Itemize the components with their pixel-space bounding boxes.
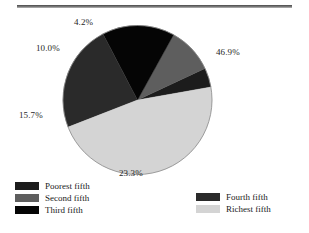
legend-label-poorest-fifth: Poorest fifth <box>45 181 90 191</box>
chart-legend: Poorest fifth Second fifth Third fifth F… <box>0 180 309 218</box>
pie-chart-figure: 46.9% 23.3% 15.7% 10.0% 4.2% Poorest fif… <box>0 0 309 233</box>
legend-swatch-icon <box>15 182 39 190</box>
legend-item-fourth-fifth: Fourth fifth <box>196 191 271 202</box>
legend-item-poorest-fifth: Poorest fifth <box>15 180 90 191</box>
slice-value-third-fifth: 15.7% <box>19 110 43 120</box>
legend-item-second-fifth: Second fifth <box>15 192 90 203</box>
slice-value-poorest-fifth: 4.2% <box>74 17 93 27</box>
slice-value-richest-fifth: 46.9% <box>216 47 240 57</box>
legend-swatch-icon <box>15 206 39 214</box>
legend-item-third-fifth: Third fifth <box>15 204 90 215</box>
legend-swatch-icon <box>196 205 220 213</box>
legend-label-third-fifth: Third fifth <box>45 205 83 215</box>
legend-label-fourth-fifth: Fourth fifth <box>226 192 268 202</box>
legend-column-left: Poorest fifth Second fifth Third fifth <box>15 180 90 215</box>
slice-value-second-fifth: 10.0% <box>36 43 60 53</box>
legend-column-right: Fourth fifth Richest fifth <box>196 191 271 214</box>
legend-swatch-icon <box>196 193 220 201</box>
legend-item-richest-fifth: Richest fifth <box>196 203 271 214</box>
slice-value-fourth-fifth: 23.3% <box>119 168 143 178</box>
legend-label-second-fifth: Second fifth <box>45 193 89 203</box>
legend-label-richest-fifth: Richest fifth <box>226 204 271 214</box>
legend-swatch-icon <box>15 194 39 202</box>
